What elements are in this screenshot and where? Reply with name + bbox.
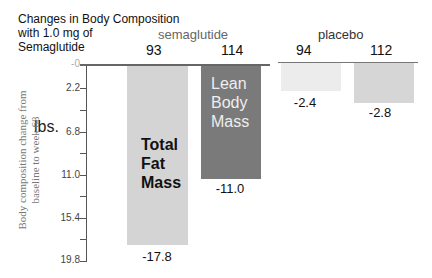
title-line-2: with 1.0 mg of	[18, 26, 179, 40]
ytick-3: 11.0	[40, 169, 80, 180]
tick-mark	[80, 175, 86, 176]
n-fat-placebo: 94	[296, 42, 312, 58]
bar-lean-placebo	[354, 63, 414, 103]
bar-fat-placebo	[281, 63, 341, 91]
ytick-5: 19.8	[40, 254, 80, 265]
label-line: Fat	[141, 154, 181, 173]
tick-mark	[80, 132, 86, 133]
ytick-4: 15.4	[40, 212, 80, 223]
n-lean-sema: 114	[221, 42, 243, 58]
group-label-placebo: placebo	[318, 27, 364, 42]
tick-mark	[80, 88, 86, 89]
label-line: Body	[211, 93, 249, 112]
group-label-semaglutide: semaglutide	[158, 27, 228, 42]
tick-mark	[80, 239, 86, 240]
tick-mark	[80, 153, 86, 154]
ytick-1: 2.2	[40, 82, 80, 93]
bar-lean-sema: Lean Body Mass	[201, 66, 261, 179]
n-fat-sema: 93	[146, 42, 162, 58]
label-line: Lean	[211, 74, 249, 93]
tick-mark	[80, 261, 86, 262]
bar-label-lean: Lean Body Mass	[211, 74, 249, 131]
tick-mark	[80, 110, 86, 111]
value-lean-sema: -11.0	[200, 181, 260, 196]
y-axis-label: Body composition change from baseline to…	[16, 60, 42, 260]
n-lean-placebo: 112	[370, 42, 392, 58]
tick-mark	[80, 196, 86, 197]
ytick-0: -0	[40, 58, 80, 69]
title-line-1: Changes in Body Composition	[18, 12, 179, 26]
ylabel-line-1: Body composition change from	[16, 60, 29, 260]
y-axis-line	[86, 64, 87, 262]
bar-label-fat: Total Fat Mass	[141, 135, 181, 192]
label-line: Mass	[141, 173, 181, 192]
label-line: Mass	[211, 112, 249, 131]
value-fat-placebo: -2.4	[275, 95, 335, 110]
label-line: Total	[141, 135, 181, 154]
ylabel-line-2: baseline to week 68	[29, 60, 42, 260]
value-fat-sema: -17.8	[127, 249, 187, 264]
value-lean-placebo: -2.8	[350, 105, 410, 120]
bar-fat-sema: Total Fat Mass	[127, 66, 188, 245]
tick-mark	[80, 218, 86, 219]
